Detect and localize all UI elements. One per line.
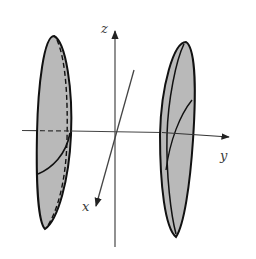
right-sheet [160, 42, 195, 237]
right-sheet-outer-fill [160, 42, 195, 237]
diagram-svg: z y x [0, 0, 256, 259]
x-axis-label: x [82, 199, 90, 214]
figure-canvas: z y x [0, 0, 256, 259]
left-sheet-fill [37, 36, 72, 229]
y-axis-label: y [219, 148, 228, 163]
left-sheet [37, 36, 72, 229]
z-axis-label: z [100, 21, 108, 36]
